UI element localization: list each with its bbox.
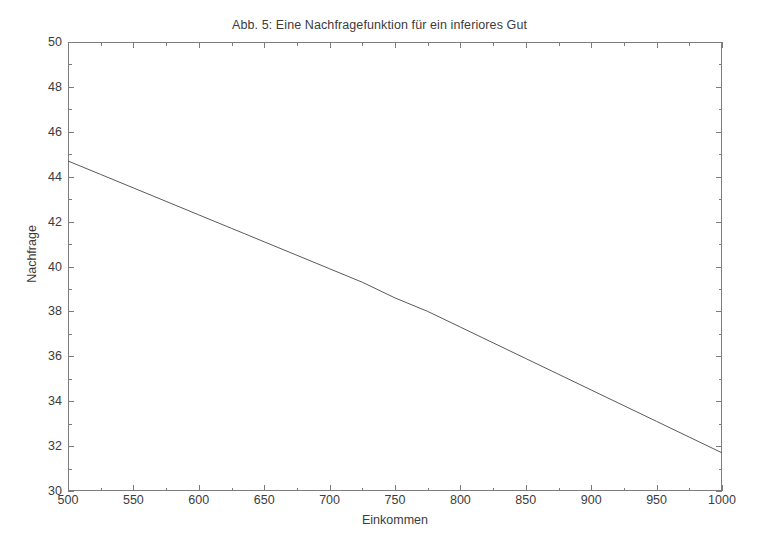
y-axis-tick-labels: 3032343638404244464850 [14,42,62,491]
x-tick-label: 700 [319,493,340,507]
y-tick-label: 42 [16,215,62,229]
y-tick-label: 32 [16,439,62,453]
x-tick-label: 500 [58,493,79,507]
chart-figure: Abb. 5: Eine Nachfragefunktion für ein i… [0,0,759,549]
y-tick-label: 48 [16,80,62,94]
x-axis-label: Einkommen [68,513,722,527]
y-tick-label: 30 [16,484,62,498]
x-tick-label: 750 [385,493,406,507]
x-tick-label: 800 [450,493,471,507]
data-series-line [68,161,722,453]
y-tick-label: 50 [16,35,62,49]
y-tick-label: 34 [16,394,62,408]
y-tick-label: 38 [16,304,62,318]
y-tick-label: 44 [16,170,62,184]
plot-area [68,42,722,491]
x-tick-label: 550 [123,493,144,507]
x-tick-label: 1000 [708,493,736,507]
x-tick-label: 600 [188,493,209,507]
chart-title: Abb. 5: Eine Nachfragefunktion für ein i… [0,18,759,32]
x-axis-tick-labels: 5005506006507007508008509009501000 [68,493,722,515]
y-tick-label: 40 [16,260,62,274]
y-tick-label: 46 [16,125,62,139]
x-tick-label: 950 [646,493,667,507]
x-tick-label: 850 [515,493,536,507]
x-tick-label: 650 [254,493,275,507]
y-tick-label: 36 [16,349,62,363]
x-tick-label: 900 [581,493,602,507]
